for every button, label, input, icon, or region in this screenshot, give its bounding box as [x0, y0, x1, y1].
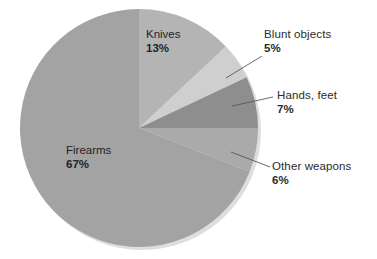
slice-label-other-weapons: Other weapons 6% [272, 160, 352, 187]
slice-label-other-weapons-value: 6% [272, 174, 352, 188]
slice-label-blunt-objects-name: Blunt objects [264, 28, 331, 42]
pie-chart: Knives 13% Firearms 67% Blunt objects 5%… [0, 0, 377, 259]
slice-label-knives-name: Knives [146, 28, 181, 42]
slice-label-knives: Knives 13% [146, 28, 181, 55]
slice-label-knives-value: 13% [146, 42, 181, 56]
slice-label-hands-feet: Hands, feet 7% [277, 89, 337, 116]
slice-label-hands-feet-value: 7% [277, 103, 337, 117]
slice-label-blunt-objects-value: 5% [264, 42, 331, 56]
slice-label-firearms-name: Firearms [66, 144, 111, 158]
slice-label-blunt-objects: Blunt objects 5% [264, 28, 331, 55]
slice-label-firearms-value: 67% [66, 158, 111, 172]
slice-label-other-weapons-name: Other weapons [272, 160, 352, 174]
slice-label-hands-feet-name: Hands, feet [277, 89, 337, 103]
slice-label-firearms: Firearms 67% [66, 144, 111, 171]
